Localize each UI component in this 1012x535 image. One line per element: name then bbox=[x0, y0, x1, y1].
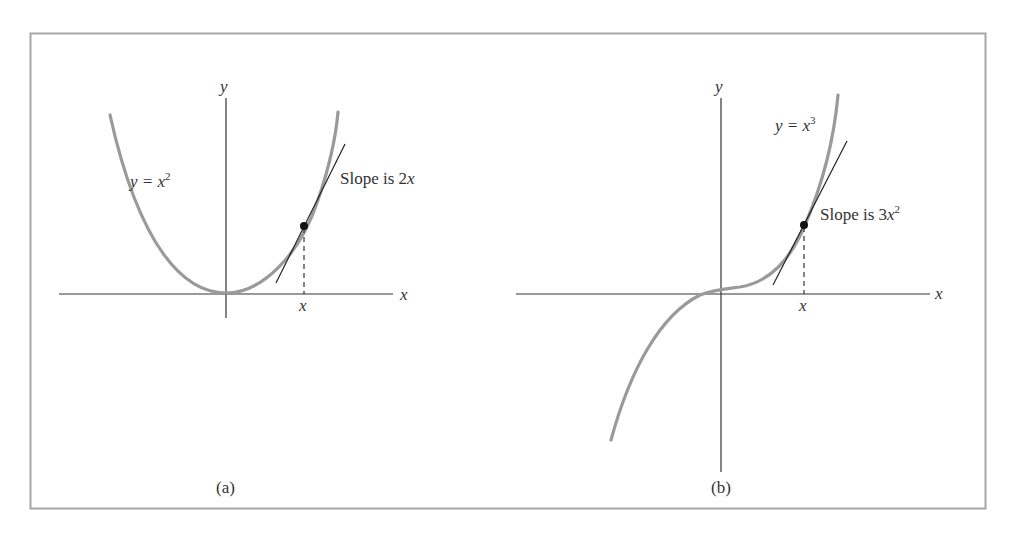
panel-a bbox=[59, 98, 393, 318]
tangent-label-a-var: x bbox=[407, 169, 415, 188]
curve-label-a-exp: 2 bbox=[165, 170, 171, 182]
x-axis-label-b: x bbox=[935, 285, 943, 302]
x-tick-label-b: x bbox=[799, 297, 807, 314]
x-tick-label-a: x bbox=[299, 297, 307, 314]
figure-canvas bbox=[0, 0, 1012, 535]
x-axis-label-a: x bbox=[400, 286, 408, 303]
figure-frame bbox=[31, 34, 986, 509]
tangent-point-a bbox=[300, 222, 308, 230]
tangent-label-b-text: Slope is 3 bbox=[820, 205, 887, 224]
derivative-figure: y x x y = x2 Slope is 2x (a) y x x y = x… bbox=[0, 0, 1012, 535]
y-axis-label-a: y bbox=[220, 78, 228, 95]
tangent-point-b bbox=[800, 221, 808, 229]
curve-label-b-lhs: y = x bbox=[775, 116, 810, 135]
curve-label-a-lhs: y = x bbox=[130, 172, 165, 191]
caption-b: (b) bbox=[711, 479, 731, 496]
tangent-label-b: Slope is 3x2 bbox=[820, 204, 900, 223]
tangent-label-b-exp: 2 bbox=[895, 203, 901, 215]
tangent-label-a-text: Slope is 2 bbox=[340, 169, 407, 188]
tangent-label-a: Slope is 2x bbox=[340, 170, 415, 187]
panel-b bbox=[516, 95, 930, 472]
curve-label-b-exp: 3 bbox=[810, 114, 816, 126]
y-axis-label-b: y bbox=[715, 78, 723, 95]
tangent-label-b-var: x bbox=[887, 205, 895, 224]
tangent-line-a bbox=[276, 144, 345, 283]
curve-label-b: y = x3 bbox=[775, 115, 816, 134]
curve-label-a: y = x2 bbox=[130, 171, 171, 190]
caption-a: (a) bbox=[216, 479, 235, 496]
